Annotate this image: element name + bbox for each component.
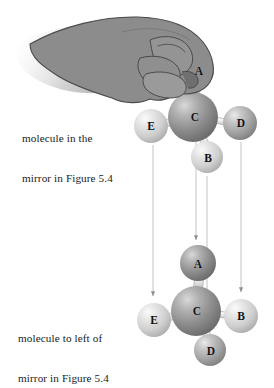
atom-sphere-D-top [223,106,257,140]
caption-left-line-1: molecule to left of [18,332,109,345]
caption-left-molecule: molecule to left of mirror in Figure 5.4 [18,305,109,388]
atom-sphere-B-top [191,141,223,173]
atom-sphere-B-bottom [224,299,258,333]
atom-sphere-C-top [168,92,218,142]
atom-sphere-A-bottom [180,245,216,281]
caption-mirror-molecule: molecule in the mirror in Figure 5.4 [22,105,113,212]
caption-mirror-line-2: mirror in Figure 5.4 [22,172,113,185]
atom-sphere-E-top [134,109,168,143]
atom-sphere-D-bottom [194,334,226,366]
caption-mirror-line-1: molecule in the [22,132,113,145]
hand-grasping-sphere [17,17,213,103]
left-molecule [137,245,258,366]
caption-left-line-2: mirror in Figure 5.4 [18,372,109,385]
atom-sphere-E-bottom [137,303,171,337]
atom-sphere-C-bottom [171,286,221,336]
